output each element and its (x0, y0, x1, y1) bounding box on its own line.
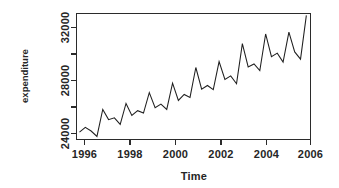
y-tick-label-28000: 28000 (59, 65, 71, 97)
x-axis-ticks (85, 140, 311, 146)
plot-frame (77, 14, 311, 140)
x-tick-label-2004: 2004 (254, 148, 280, 160)
y-axis-ticks (71, 28, 77, 134)
y-axis-tick-labels: 24000 28000 32000 (59, 12, 71, 150)
x-axis-title: Time (181, 170, 207, 182)
x-tick-label-1998: 1998 (117, 148, 142, 160)
expenditure-series-line (79, 15, 306, 136)
chart-container: 24000 28000 32000 1996 1998 2000 2002 20… (0, 0, 339, 188)
y-tick-label-24000: 24000 (59, 118, 71, 150)
x-axis-tick-labels: 1996 1998 2000 2002 2004 2006 (72, 148, 323, 160)
x-tick-label-2006: 2006 (298, 148, 323, 160)
x-tick-label-2002: 2002 (208, 148, 233, 160)
x-tick-label-2000: 2000 (163, 148, 188, 160)
expenditure-time-series-chart: 24000 28000 32000 1996 1998 2000 2002 20… (0, 0, 339, 188)
y-axis-title: expenditure (19, 49, 30, 103)
y-tick-label-32000: 32000 (59, 12, 71, 44)
x-tick-label-1996: 1996 (72, 148, 97, 160)
